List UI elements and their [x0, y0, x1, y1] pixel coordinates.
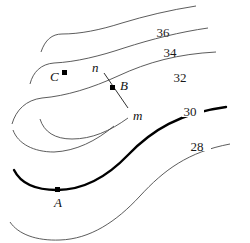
contour-label-28: 28	[191, 139, 204, 154]
upper-left-open-curve	[40, 118, 128, 139]
point-marker-B	[110, 85, 115, 90]
contour-map-svg: 36 34 32 30 28	[0, 0, 250, 243]
label-n: n	[92, 60, 99, 75]
point-label-B: B	[120, 78, 128, 93]
lower-mid-open-curve	[13, 126, 114, 152]
point-marker-A	[55, 187, 60, 192]
contour-map-figure: 36 34 32 30 28	[0, 0, 250, 243]
point-B: B	[110, 78, 128, 93]
gradient-normal-segment: n m	[92, 60, 142, 123]
contour-label-30: 30	[184, 104, 197, 119]
point-marker-C	[62, 70, 67, 75]
point-label-C: C	[50, 69, 59, 84]
label-m: m	[133, 108, 142, 123]
contour-path-28	[10, 144, 230, 240]
point-C: C	[50, 69, 67, 84]
contour-label-32: 32	[174, 70, 187, 85]
point-label-A: A	[53, 195, 62, 210]
